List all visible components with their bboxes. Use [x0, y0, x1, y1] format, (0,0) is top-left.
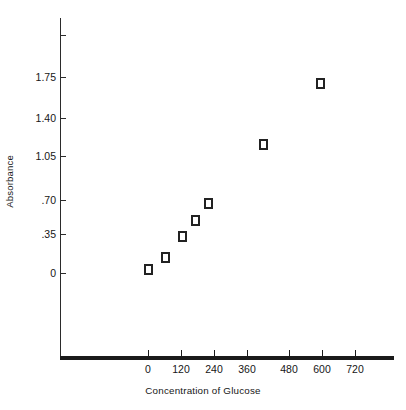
x-axis-tick-480	[289, 350, 290, 357]
y-axis-label-1-75: 1.75	[28, 72, 56, 83]
data-point-marker	[161, 252, 170, 263]
y-axis-tick-0-35	[61, 234, 66, 235]
y-axis-tick-0-70	[61, 200, 66, 201]
x-axis-label-720: 720	[335, 364, 375, 375]
x-axis-tick-600	[322, 350, 323, 357]
data-point-marker	[178, 231, 187, 242]
scatter-plot-figure: 1.75 1.40 1.05 .70 .35 0 0 120 240 360 4…	[0, 0, 406, 410]
x-axis-tick-0	[148, 350, 149, 357]
x-axis-tick-360	[247, 350, 248, 357]
y-axis-tick-0	[61, 273, 66, 274]
y-axis-tick-1-05	[61, 156, 66, 157]
data-point-marker	[144, 264, 153, 275]
data-point-marker	[204, 198, 213, 209]
data-point-marker	[191, 215, 200, 226]
x-axis-line	[60, 356, 394, 360]
x-axis-tick-120	[181, 350, 182, 357]
x-axis-tick-240	[214, 350, 215, 357]
y-axis-label-0: 0	[28, 268, 56, 279]
y-axis-label-1-40: 1.40	[28, 113, 56, 124]
y-axis-tick-1-40	[61, 118, 66, 119]
y-axis-label-0-70: .70	[28, 195, 56, 206]
y-axis-title: Absorbance	[5, 155, 15, 208]
data-point-marker	[316, 78, 325, 89]
x-axis-label-360: 360	[227, 364, 267, 375]
x-axis-tick-720	[355, 350, 356, 357]
data-point-marker	[259, 139, 268, 150]
y-axis-label-0-35: .35	[28, 229, 56, 240]
y-axis-line	[60, 18, 61, 359]
x-axis-title: Concentration of Glucose	[0, 385, 406, 396]
y-axis-label-1-05: 1.05	[28, 151, 56, 162]
y-axis-tick-1-75	[61, 77, 66, 78]
y-axis-tick-top-unlabeled	[61, 35, 66, 36]
